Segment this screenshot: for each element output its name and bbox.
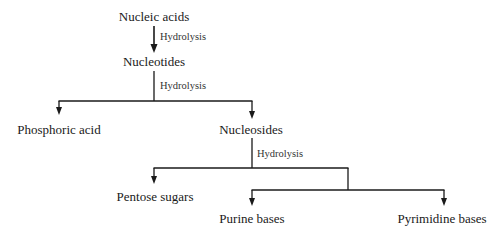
arrow-to-pentose-sugars bbox=[151, 168, 157, 184]
diagram-connectors bbox=[0, 0, 497, 241]
node-nucleic-acids: Nucleic acids bbox=[119, 9, 189, 24]
arrow-to-purine-bases bbox=[249, 190, 255, 206]
connector-nucleotides-split bbox=[59, 71, 253, 101]
node-pentose-sugars: Pentose sugars bbox=[117, 189, 194, 204]
node-nucleotides: Nucleotides bbox=[123, 54, 185, 69]
arrow-to-nucleosides bbox=[249, 101, 255, 119]
node-pyrimidine-bases: Pyrimidine bases bbox=[397, 211, 486, 226]
node-phosphoric-acid: Phosphoric acid bbox=[17, 122, 100, 137]
arrow-to-phosphoric-acid bbox=[56, 101, 62, 115]
connector-bases-split bbox=[252, 168, 445, 190]
edge-label-hydrolysis-2: Hydrolysis bbox=[160, 80, 206, 92]
arrow-nucleic-acids-to-nucleotides bbox=[151, 26, 158, 53]
connector-nucleosides-split bbox=[154, 138, 349, 168]
edge-label-hydrolysis-1: Hydrolysis bbox=[160, 31, 206, 43]
node-nucleosides: Nucleosides bbox=[219, 122, 283, 137]
edge-label-hydrolysis-3: Hydrolysis bbox=[257, 148, 303, 160]
node-purine-bases: Purine bases bbox=[219, 211, 284, 226]
arrow-to-pyrimidine-bases bbox=[441, 190, 447, 206]
